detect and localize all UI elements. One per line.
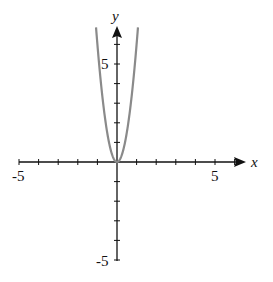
x-tick-label-5: 5 xyxy=(211,168,219,184)
x-tick-label-neg5: -5 xyxy=(12,168,25,184)
y-tick-label-5: 5 xyxy=(101,56,109,72)
y-axis-label: y xyxy=(110,8,119,24)
y-tick-label-neg5: -5 xyxy=(96,253,109,269)
function-graph: x y -5 5 5 -5 xyxy=(0,0,273,282)
axis-ticks xyxy=(19,44,235,260)
plot-canvas: x y -5 5 5 -5 xyxy=(0,0,273,282)
x-axis-label: x xyxy=(250,154,258,170)
